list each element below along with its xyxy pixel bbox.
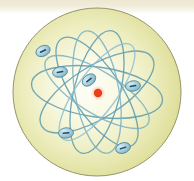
atom-diagram xyxy=(0,0,194,181)
nucleus xyxy=(94,89,102,97)
nucleus-group xyxy=(90,85,105,100)
atom-figure xyxy=(0,0,194,181)
